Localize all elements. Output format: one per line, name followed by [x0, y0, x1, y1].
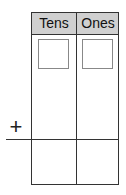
- chart-header: Tens Ones: [32, 13, 118, 35]
- ones-input-box[interactable]: [82, 39, 113, 69]
- header-ones: Ones: [77, 13, 119, 34]
- header-tens: Tens: [32, 13, 76, 34]
- place-value-chart: Tens Ones: [31, 12, 119, 185]
- tens-input-box[interactable]: [38, 39, 69, 69]
- plus-sign: +: [7, 117, 25, 137]
- column-divider: [76, 13, 77, 184]
- sum-line: [6, 139, 119, 140]
